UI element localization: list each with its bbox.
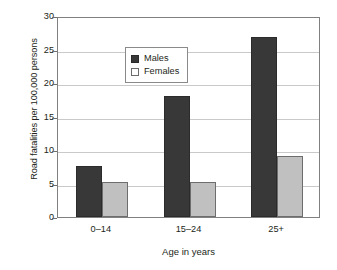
bar-series-container — [58, 18, 319, 217]
x-tick-label: 0–14 — [56, 224, 146, 234]
x-tick-label: 15–24 — [144, 224, 234, 234]
legend-item-males: Males — [131, 52, 179, 65]
y-tick-mark — [52, 218, 57, 219]
bar-males-2 — [251, 37, 277, 217]
y-tick-label: 5 — [14, 180, 54, 189]
y-tick-label: 20 — [14, 79, 54, 88]
legend-label-females: Females — [144, 67, 179, 76]
y-tick-label: 30 — [14, 12, 54, 21]
y-tick-label: 15 — [14, 113, 54, 122]
bar-females-1 — [190, 182, 216, 217]
legend-item-females: Females — [131, 65, 179, 78]
legend-swatch-males-icon — [131, 55, 139, 63]
x-tick-label: 25+ — [231, 224, 321, 234]
x-axis-title: Age in years — [57, 246, 320, 257]
y-tick-label: 25 — [14, 46, 54, 55]
bar-chart-figure: Road fatalities per 100,000 persons 0510… — [0, 0, 337, 270]
y-tick-label: 0 — [14, 213, 54, 222]
legend-label-males: Males — [144, 54, 169, 63]
plot-area: Males Females — [57, 17, 320, 218]
bar-males-0 — [76, 166, 102, 217]
bar-males-1 — [164, 96, 190, 217]
legend-swatch-females-icon — [131, 68, 139, 76]
y-tick-label: 10 — [14, 146, 54, 155]
legend: Males Females — [125, 47, 188, 83]
bar-females-2 — [277, 156, 303, 217]
bar-females-0 — [102, 182, 128, 217]
